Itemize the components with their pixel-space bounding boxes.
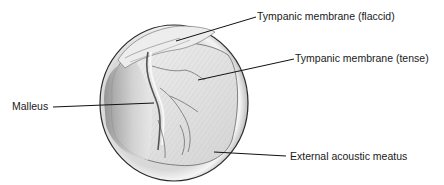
tympanic-membrane-figure: Tympanic membrane (flaccid) Tympanic mem… <box>0 0 444 185</box>
label-external-acoustic-meatus: External acoustic meatus <box>290 150 407 162</box>
label-tympanic-membrane-flaccid: Tympanic membrane (flaccid) <box>257 10 395 22</box>
label-malleus: Malleus <box>12 100 48 112</box>
label-tympanic-membrane-tense: Tympanic membrane (tense) <box>295 52 429 64</box>
